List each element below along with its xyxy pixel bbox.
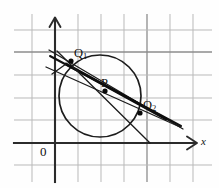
point-p-label: P [101, 77, 108, 90]
geometry-figure: Q1 P Q2 0 x [0, 0, 219, 188]
line-family [46, 50, 183, 143]
x-axis-label: x [201, 136, 206, 147]
origin-label: 0 [40, 145, 47, 158]
steep-line-to-x-axis [57, 51, 150, 143]
point-q1-label: Q1 [74, 47, 87, 60]
point-q2-dot [137, 110, 142, 115]
figure-canvas [0, 0, 219, 188]
point-q1-letter: Q [74, 46, 83, 60]
point-q2-letter: Q [143, 98, 152, 112]
point-q1-dot [68, 58, 73, 63]
point-q1-subscript: 1 [83, 51, 87, 61]
point-q2-label: Q2 [143, 99, 156, 112]
point-q2-subscript: 2 [152, 103, 156, 113]
